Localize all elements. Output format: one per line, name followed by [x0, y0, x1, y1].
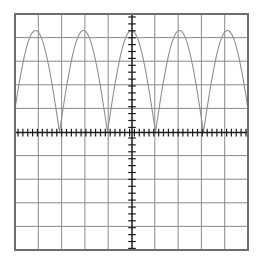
plot-svg[interactable]	[0, 0, 264, 266]
plot-area[interactable]	[0, 0, 264, 266]
graph-screenshot	[0, 0, 264, 266]
